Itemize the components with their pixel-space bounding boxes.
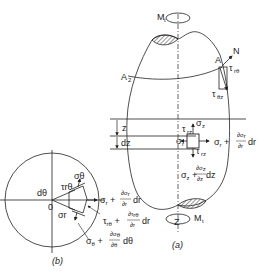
dz-label: dz	[121, 138, 131, 148]
svg-text:t: t	[202, 218, 204, 224]
svg-text:dr: dr	[248, 137, 256, 147]
point-a2-label: A	[121, 72, 127, 82]
svg-text:θz: θz	[217, 94, 223, 100]
svg-text:∂z: ∂z	[197, 176, 203, 182]
tau-rtheta-plus-label: τrθ +	[103, 216, 120, 227]
caption-b: (b)	[52, 256, 63, 266]
z-label: z	[122, 123, 127, 133]
svg-text:rz: rz	[187, 129, 192, 135]
stress-diagram: M t Z M t A N τ rθ τ θz A 2 z dz σ z τ r…	[0, 0, 277, 276]
origin-label: 0	[48, 202, 53, 212]
svg-text:∂σr: ∂σr	[237, 132, 246, 139]
svg-text:∂τrθ: ∂τrθ	[128, 211, 139, 218]
tau-rtheta-label: τ	[229, 63, 233, 73]
svg-text:∂r: ∂r	[122, 201, 127, 207]
svg-text:∂σr: ∂σr	[121, 190, 130, 197]
svg-text:dr: dr	[142, 216, 150, 226]
normal-label: N	[233, 46, 240, 56]
moment-bottom-label: M	[194, 213, 202, 223]
tau-thetaz-label: τ	[212, 89, 216, 99]
svg-text:∂θ: ∂θ	[111, 242, 118, 248]
svg-text:dr: dr	[133, 195, 141, 205]
svg-text:rθ: rθ	[234, 68, 240, 74]
section-curve	[128, 67, 222, 79]
tau-rtheta-b-label: τrθ	[61, 182, 73, 192]
sigma-theta-plus-label: σθ +	[86, 236, 103, 247]
tau-rz-top-label: τ	[182, 124, 186, 134]
svg-text:dz: dz	[206, 170, 216, 180]
sigma-theta-label: σθ	[74, 171, 85, 181]
svg-text:∂r: ∂r	[238, 143, 243, 149]
dtheta-label: dθ	[37, 188, 47, 198]
axis-z-label: Z	[174, 217, 180, 227]
svg-text:∂σz: ∂σz	[196, 165, 206, 172]
hatched-bottom	[178, 199, 206, 209]
svg-text:dθ: dθ	[123, 236, 133, 246]
svg-text:r: r	[182, 141, 184, 147]
svg-text:z: z	[202, 123, 205, 129]
svg-text:∂σθ: ∂σθ	[110, 231, 121, 238]
svg-text:∂r: ∂r	[130, 222, 135, 228]
point-a-label: A	[215, 55, 221, 65]
sigma-r-b-label: σr	[58, 210, 67, 220]
sigma-z-plus-label: σz +	[181, 170, 197, 181]
sigma-r-plus-label: σr +	[214, 137, 229, 148]
svg-text:2: 2	[128, 77, 132, 83]
tau-rz-bottom-label: τ	[196, 146, 200, 156]
svg-text:rz: rz	[201, 151, 206, 157]
sigma-r-plus-b-label: σr +	[100, 195, 115, 206]
caption-a: (a)	[172, 240, 183, 250]
